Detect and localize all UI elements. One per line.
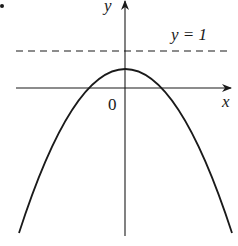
origin-label: 0 xyxy=(108,95,117,114)
x-axis-label: x xyxy=(221,92,230,111)
parabola-diagram: y = 1 x y 0 xyxy=(0,0,238,246)
bullet-dot xyxy=(0,4,4,8)
y-axis-label: y xyxy=(102,0,112,15)
reference-line-label: y = 1 xyxy=(169,25,207,44)
